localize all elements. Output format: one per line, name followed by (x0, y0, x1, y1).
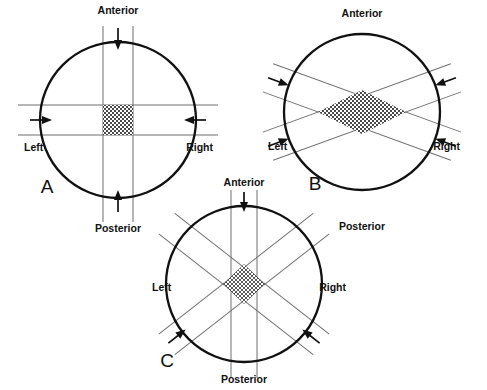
label-left-c: Left (152, 281, 172, 293)
label-anterior-c: Anterior (224, 176, 265, 188)
panel-letter-b: B (309, 173, 322, 194)
target-volume-c (223, 264, 265, 304)
target-volume-a (103, 105, 133, 135)
label-posterior-a: Posterior (95, 222, 141, 234)
posterior-arrow-a (114, 190, 122, 212)
figure-page: Anterior Posterior Left Right A (0, 0, 487, 390)
label-anterior-a: Anterior (98, 4, 139, 16)
label-left-b: Left (268, 140, 288, 152)
panel-letter-a: A (41, 176, 54, 197)
panel-c: Anterior Posterior Left Right C (152, 176, 346, 385)
label-right-c: Right (319, 281, 346, 293)
anterior-arrow-a (114, 28, 122, 50)
left-upper-oblique-arrow-b (267, 74, 290, 89)
label-right-b: Right (433, 140, 460, 152)
panel-a: Anterior Posterior Left Right A (18, 4, 218, 234)
panel-letter-c: C (160, 350, 174, 371)
panel-b: Anterior Posterior Left Right B (263, 7, 461, 232)
right-upper-oblique-arrow-b (434, 74, 457, 89)
anterior-arrow-c (240, 192, 248, 212)
target-volume-b (318, 90, 406, 134)
beam-arrangement-figure: Anterior Posterior Left Right A (0, 0, 487, 390)
label-right-a: Right (186, 141, 213, 153)
label-posterior-b: Posterior (339, 220, 385, 232)
label-anterior-b: Anterior (342, 7, 383, 19)
label-left-a: Left (24, 141, 44, 153)
label-posterior-c: Posterior (221, 373, 267, 385)
